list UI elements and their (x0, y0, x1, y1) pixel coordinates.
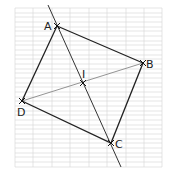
label-c: C (115, 138, 123, 151)
rhombus-abcd (22, 26, 143, 143)
diagram-canvas: A B C D I (0, 0, 169, 177)
label-d: D (17, 106, 25, 119)
label-a: A (44, 20, 52, 33)
label-i: I (82, 68, 85, 81)
grid (15, 8, 162, 167)
point-markers (19, 23, 146, 146)
label-b: B (146, 58, 154, 71)
